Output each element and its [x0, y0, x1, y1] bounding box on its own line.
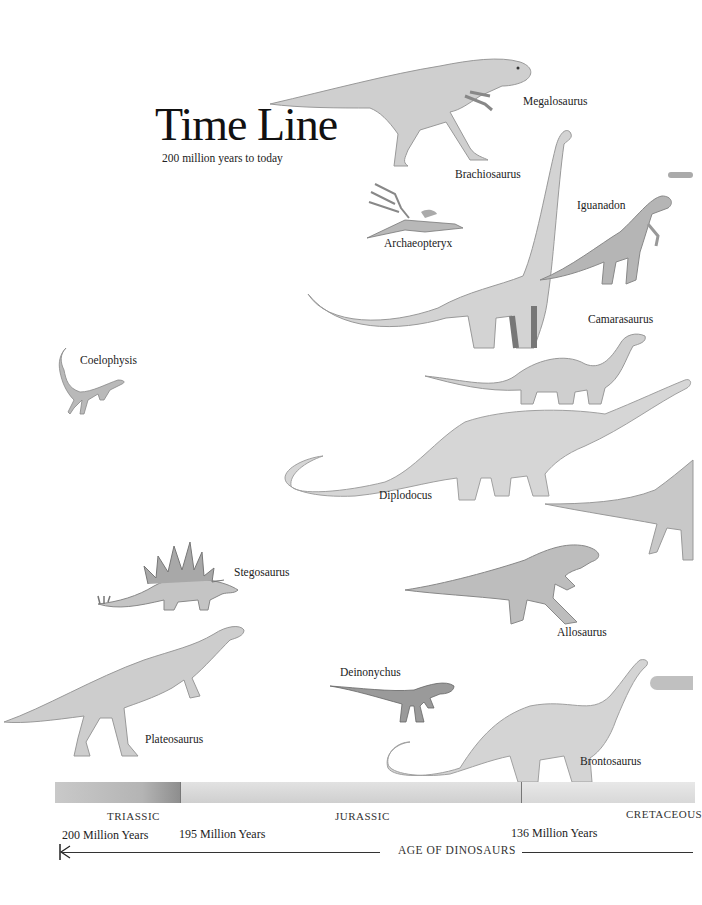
timeline-segment-jurassic [181, 782, 522, 803]
partial-creature-edge-top [668, 172, 693, 178]
dino-label-brachiosaurus: Brachiosaurus [455, 168, 521, 180]
timeline-segment-cretaceous [522, 782, 695, 803]
period-jurassic: JURASSIC [335, 810, 390, 822]
allosaurus-illustration [405, 540, 605, 630]
axis-line-right [522, 852, 693, 853]
marker-200-million: 200 Million Years [62, 828, 148, 843]
dino-label-camarasaurus: Camarasaurus [588, 313, 653, 325]
timeline-bar [55, 782, 695, 803]
arrow-left-icon [58, 844, 72, 864]
axis-label: AGE OF DINOSAURS [398, 844, 516, 856]
archaeopteryx-illustration [365, 182, 465, 242]
dino-label-allosaurus: Allosaurus [557, 626, 607, 638]
timeline-segment-triassic [55, 782, 181, 803]
dino-label-archaeopteryx: Archaeopteryx [384, 237, 452, 249]
dino-label-brontosaurus: Brontosaurus [580, 755, 641, 767]
marker-136-million: 136 Million Years [511, 826, 597, 841]
stegosaurus-illustration [98, 540, 243, 612]
dino-label-iguanadon: Iguanadon [577, 199, 626, 211]
dino-label-plateosaurus: Plateosaurus [145, 733, 203, 745]
marker-195-million: 195 Million Years [179, 827, 265, 842]
page-subtitle: 200 million years to today [162, 152, 283, 164]
period-cretaceous: CRETACEOUS [626, 808, 702, 820]
dino-label-coelophysis: Coelophysis [80, 354, 137, 366]
plateosaurus-illustration [4, 618, 246, 760]
period-triassic: TRIASSIC [107, 810, 160, 822]
dino-label-diplodocus: Diplodocus [379, 489, 432, 501]
dino-label-stegosaurus: Stegosaurus [234, 566, 290, 578]
dino-label-megalosaurus: Megalosaurus [523, 95, 588, 107]
axis-line-left [62, 852, 380, 853]
partial-creature-edge-bottom [650, 676, 693, 690]
